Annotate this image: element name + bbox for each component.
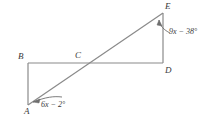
point-label-B: B [18,52,24,61]
figure-canvas [0,0,203,118]
point-label-C: C [75,51,81,60]
segment-AE [28,13,163,105]
point-label-A: A [24,107,30,116]
angle-arrowhead-E [157,20,162,26]
point-label-E: E [165,2,171,11]
angle-label-A: 6x − 2° [41,101,65,109]
geometry-figure: A B C D E 6x − 2° 9x − 38° [0,0,203,118]
point-label-D: D [165,66,172,75]
angle-label-E: 9x − 38° [169,28,197,36]
